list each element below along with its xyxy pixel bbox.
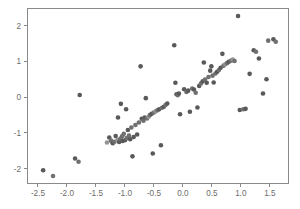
y-tick-label: -1 [14, 129, 22, 138]
data-point [116, 115, 121, 120]
x-tick-label: -1.0 [118, 189, 133, 198]
data-point [186, 88, 191, 93]
data-point [247, 72, 252, 77]
x-tick-label: -1.5 [89, 189, 104, 198]
plot-background [0, 0, 300, 209]
data-point [243, 107, 248, 112]
data-point [172, 43, 177, 48]
data-point [165, 101, 170, 106]
data-point [220, 52, 225, 57]
data-point [273, 39, 278, 44]
data-point [51, 174, 56, 179]
data-point [257, 56, 262, 61]
data-point [119, 102, 124, 107]
y-tick-label: 0 [16, 93, 21, 102]
data-point [159, 143, 164, 148]
data-point [137, 120, 142, 125]
data-point [195, 105, 200, 110]
y-tick-label: 1 [16, 57, 21, 66]
x-tick-label: -2.5 [31, 189, 46, 198]
x-tick-label: 1.0 [235, 189, 247, 198]
data-point [138, 64, 143, 69]
x-tick-label: -0.5 [147, 189, 162, 198]
x-tick-label: 1.5 [264, 189, 276, 198]
data-point [121, 132, 126, 137]
data-point [113, 134, 118, 139]
data-point [124, 107, 129, 112]
scatter-plot-figure: -2.5-2.0-1.5-1.0-0.50.00.51.01.5 210-1-2 [0, 0, 300, 209]
data-point [178, 112, 183, 117]
data-point [236, 14, 241, 19]
data-point [130, 154, 135, 159]
data-point [208, 68, 213, 73]
y-tick-label: -2 [14, 165, 22, 174]
data-point [173, 80, 178, 85]
x-axis-tick-labels: -2.5-2.0-1.5-1.0-0.50.00.51.01.5 [31, 189, 276, 198]
data-point [204, 80, 209, 85]
data-point [188, 109, 193, 114]
y-tick-label: 2 [16, 22, 21, 31]
x-tick-label: -2.0 [60, 189, 75, 198]
data-point [209, 64, 214, 69]
data-point [135, 132, 140, 137]
x-tick-label: 0.5 [206, 189, 218, 198]
data-point [73, 156, 78, 161]
data-point [254, 49, 259, 54]
data-point [193, 90, 198, 95]
data-point [177, 91, 182, 96]
x-tick-label: 0.0 [177, 189, 189, 198]
data-point [41, 168, 46, 173]
data-point [105, 140, 110, 145]
data-point [206, 75, 211, 80]
data-point [77, 93, 82, 98]
data-point [211, 80, 216, 85]
data-point [264, 77, 269, 82]
data-point [150, 151, 155, 156]
data-point [129, 125, 134, 130]
data-point [261, 91, 266, 96]
data-point [266, 38, 271, 43]
data-point [202, 60, 207, 65]
scatter-plot-canvas: -2.5-2.0-1.5-1.0-0.50.00.51.01.5 210-1-2 [0, 0, 300, 209]
data-point [144, 96, 149, 101]
data-point [232, 59, 237, 64]
data-point [76, 159, 81, 164]
